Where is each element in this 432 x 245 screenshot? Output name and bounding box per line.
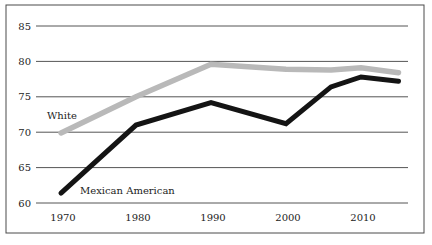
line-mexican-american xyxy=(61,77,399,193)
x-tick-label: 2010 xyxy=(350,212,375,223)
series-label-mexican-american: Mexican American xyxy=(80,186,175,196)
y-tick-label: 60 xyxy=(18,198,31,209)
y-tick-label: 80 xyxy=(18,56,31,67)
x-tick-label: 1970 xyxy=(50,212,75,223)
line-chart-figure: 85807570656019701980199020002010 White M… xyxy=(0,0,432,245)
y-tick-label: 70 xyxy=(18,127,31,138)
plot-area: 85807570656019701980199020002010 xyxy=(0,0,432,245)
y-tick-label: 75 xyxy=(18,91,31,102)
x-tick-label: 1990 xyxy=(200,212,225,223)
y-tick-label: 85 xyxy=(18,21,31,32)
y-tick-label: 65 xyxy=(18,162,31,173)
line-white xyxy=(61,64,399,133)
series-label-white: White xyxy=(47,111,77,121)
x-tick-label: 2000 xyxy=(275,212,300,223)
x-tick-label: 1980 xyxy=(125,212,150,223)
